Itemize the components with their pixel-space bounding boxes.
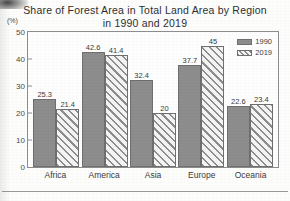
scanned-page: Share of Forest Area in Total Land Area … [0, 0, 290, 201]
bar-africa-2019: 21.4 [56, 109, 79, 167]
bar-asia-1990: 32.4 [130, 80, 153, 167]
y-axis-tick-label: 50 [16, 28, 25, 37]
legend-label-1990: 1990 [255, 37, 272, 46]
legend-item-1990: 1990 [237, 37, 272, 46]
bar-oceania-2019: 23.4 [250, 104, 273, 167]
bar-group: 37.745 [177, 32, 225, 167]
page-horizontal-rule [2, 191, 288, 192]
x-axis-label-asia: Asia [129, 170, 178, 180]
x-axis-label-oceania: Oceania [226, 170, 275, 180]
bar-value-label: 42.6 [86, 43, 101, 52]
x-axis-category-labels: AfricaAmericaAsiaEuropeOceania [27, 170, 279, 180]
bar-value-label: 25.3 [37, 90, 52, 99]
bar-group: 25.321.4 [32, 32, 80, 167]
y-axis-tick-label: 10 [16, 136, 25, 145]
y-axis-tick-label: 0 [21, 163, 25, 172]
legend-swatch-1990 [237, 39, 252, 45]
bar-value-label: 21.4 [60, 100, 75, 109]
chart-title-line-2: in 1990 and 2019 [0, 17, 290, 30]
bar-value-label: 45 [209, 37, 217, 46]
x-axis-label-america: America [80, 170, 129, 180]
bar-europe-2019: 45 [201, 46, 224, 168]
bar-group: 32.420 [129, 32, 177, 167]
bar-value-label: 20 [160, 104, 168, 113]
legend-label-2019: 2019 [255, 48, 272, 57]
chart-title-line-1: Share of Forest Area in Total Land Area … [0, 4, 290, 17]
legend-item-2019: 2019 [237, 48, 272, 57]
bar-value-label: 41.4 [109, 46, 124, 55]
bar-group: 42.641.4 [80, 32, 128, 167]
bar-africa-1990: 25.3 [33, 99, 56, 167]
bar-value-label: 22.6 [231, 97, 246, 106]
y-axis-tick-label: 20 [16, 109, 25, 118]
y-axis-tick-label: 30 [16, 82, 25, 91]
scan-edge-shadow [0, 0, 10, 201]
x-axis-label-africa: Africa [31, 170, 80, 180]
bar-europe-1990: 37.7 [178, 65, 201, 167]
bar-america-1990: 42.6 [82, 52, 105, 167]
bar-oceania-1990: 22.6 [227, 106, 250, 167]
chart-title: Share of Forest Area in Total Land Area … [0, 4, 290, 30]
bar-value-label: 23.4 [254, 95, 269, 104]
bar-value-label: 32.4 [134, 71, 149, 80]
x-axis-label-europe: Europe [177, 170, 226, 180]
y-axis-tick-label: 40 [16, 55, 25, 64]
bar-america-2019: 41.4 [105, 55, 128, 167]
bar-asia-2019: 20 [153, 113, 176, 167]
chart-legend: 1990 2019 [237, 37, 272, 57]
bar-value-label: 37.7 [183, 56, 198, 65]
chart-plot-frame: 01020304050 25.321.442.641.432.42037.745… [27, 31, 279, 168]
y-axis-unit-label: (%) [7, 17, 18, 24]
legend-swatch-2019 [237, 50, 252, 56]
